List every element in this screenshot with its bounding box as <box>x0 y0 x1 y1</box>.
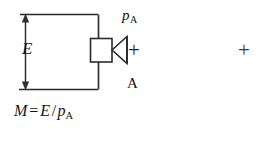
formula-denominator: p <box>58 102 66 119</box>
transducer-body-rect <box>91 39 113 63</box>
pressure-subscript: A <box>130 14 137 25</box>
pressure-label-pa: pA <box>122 8 137 25</box>
area-label-a: A <box>127 76 138 91</box>
formula-expression: M=E/pA <box>14 103 73 122</box>
dimension-label-E: E <box>22 40 32 57</box>
formula-slash: / <box>52 102 56 119</box>
formula-numerator: E <box>40 102 50 119</box>
formula-denominator-subscript: A <box>66 110 74 121</box>
plus-sign-registration-mark: + <box>238 40 250 61</box>
figure-canvas: E pA A + + M=E/pA <box>0 0 271 141</box>
formula-equals: = <box>29 102 38 119</box>
pressure-symbol: p <box>122 7 130 23</box>
plus-sign-near-horn: + <box>128 40 140 61</box>
horn-radiator-triangle <box>112 37 127 64</box>
formula-lhs: M <box>14 102 27 119</box>
